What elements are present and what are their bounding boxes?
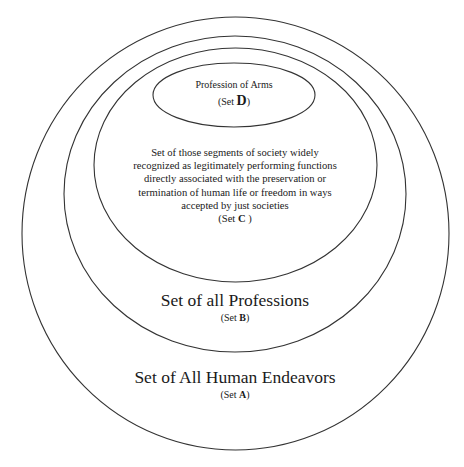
set-c-label: (Set C ) [110, 212, 360, 225]
set-a-label: (Set A) [110, 389, 360, 402]
set-c-title: Set of those segments of society widely … [110, 146, 360, 212]
set-a-title: Set of All Human Endeavors [110, 367, 360, 389]
set-d-label: (Set D) [154, 92, 314, 110]
set-b-title: Set of all Professions [120, 290, 350, 312]
set-d-title: Profession of Arms [154, 79, 314, 92]
set-b-label: (Set B) [120, 312, 350, 325]
